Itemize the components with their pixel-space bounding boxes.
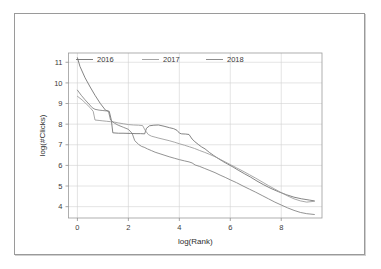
y-tick-label: 5 bbox=[58, 182, 62, 191]
legend-label-2018: 2018 bbox=[227, 55, 244, 64]
y-tick-label: 4 bbox=[58, 202, 62, 211]
x-tick-label: 4 bbox=[177, 223, 181, 232]
y-tick-label: 11 bbox=[55, 58, 63, 67]
y-tick-label: 8 bbox=[58, 120, 62, 129]
y-tick-label: 7 bbox=[58, 140, 62, 149]
legend-label-2016: 2016 bbox=[97, 55, 114, 64]
x-tick-label: 8 bbox=[279, 223, 283, 232]
y-axis-title: log(#Clicks) bbox=[38, 114, 47, 156]
chart-figure: 456789101102468log(Rank)log(#Clicks)2016… bbox=[0, 0, 381, 269]
x-tick-label: 0 bbox=[75, 223, 79, 232]
y-tick-label: 6 bbox=[58, 161, 62, 170]
y-tick-label: 10 bbox=[54, 79, 62, 88]
chart-screenshot: 456789101102468log(Rank)log(#Clicks)2016… bbox=[0, 0, 381, 269]
x-tick-label: 6 bbox=[228, 223, 232, 232]
plot-background bbox=[69, 53, 323, 218]
x-tick-label: 2 bbox=[126, 223, 130, 232]
y-tick-label: 9 bbox=[58, 99, 62, 108]
legend-label-2017: 2017 bbox=[163, 55, 180, 64]
x-axis-title: log(Rank) bbox=[178, 237, 213, 246]
